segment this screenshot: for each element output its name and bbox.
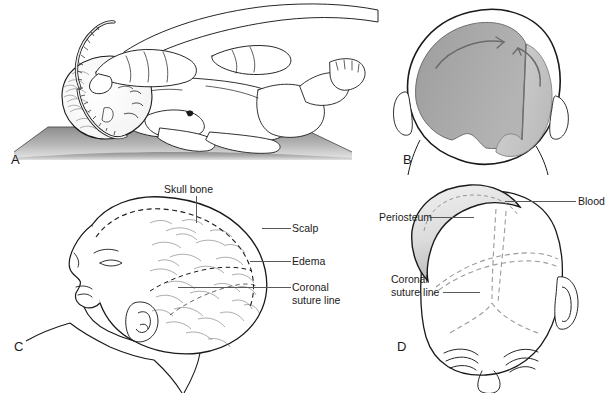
panel-a-head-circumference: A xyxy=(0,0,380,175)
leader-line-blood xyxy=(505,201,576,202)
panel-c-caput-succedaneum: C xyxy=(0,175,330,393)
panel-b-molding: B xyxy=(380,0,615,175)
label-scalp: Scalp xyxy=(292,222,318,235)
label-coronal-suture-line-d: Coronal suture line xyxy=(391,273,439,298)
panel-a-illustration xyxy=(0,0,380,175)
panel-letter-b: B xyxy=(403,152,412,167)
medical-figure: A xyxy=(0,0,615,393)
leader-line-coronal-suture-c xyxy=(178,287,291,288)
label-blood: Blood xyxy=(578,195,605,208)
label-periosteum: Periosteum xyxy=(379,211,432,224)
ear-top-view xyxy=(555,277,578,329)
label-skull-bone: Skull bone xyxy=(164,183,213,196)
panel-b-illustration xyxy=(380,0,615,175)
leader-line-edema xyxy=(250,261,291,262)
leader-line-scalp xyxy=(262,228,291,229)
label-coronal-suture-line-c: Coronal suture line xyxy=(292,281,340,306)
leader-line-skull-bone xyxy=(196,196,197,223)
panel-d-illustration xyxy=(330,175,615,393)
leader-line-coronal-suture-d xyxy=(443,292,480,293)
panel-letter-a: A xyxy=(11,152,20,167)
label-edema: Edema xyxy=(292,255,325,268)
leader-line-periosteum xyxy=(430,217,474,218)
panel-letter-c: C xyxy=(14,339,24,354)
panel-letter-d: D xyxy=(397,339,407,354)
panel-c-illustration xyxy=(0,175,330,393)
panel-d-cephalohematoma: D xyxy=(330,175,615,393)
head-profile-outline xyxy=(26,197,267,393)
